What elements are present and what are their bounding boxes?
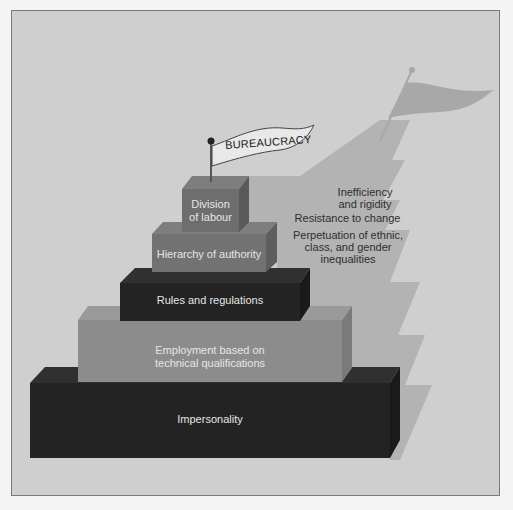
consequence-resistance: Resistance to change [285,212,410,224]
label-line: inequalities [283,253,413,265]
label-line: Inefficiency [310,186,420,198]
label-line: Division [182,198,239,211]
label-line: and rigidity [310,198,420,210]
label-hierarchy: Hierarchy of authority [152,248,266,261]
label-line: technical qualifications [78,357,342,370]
label-line: Impersonality [30,413,390,426]
label-line: class, and gender [283,241,413,253]
label-rules: Rules and regulations [120,294,300,307]
label-line: of labour [182,211,239,224]
label-impersonality: Impersonality [30,413,390,426]
label-line: Perpetuation of ethnic, [283,229,413,241]
label-line: Rules and regulations [120,294,300,307]
label-line: Hierarchy of authority [152,248,266,261]
label-employment: Employment based on technical qualificat… [78,344,342,370]
consequence-inequalities: Perpetuation of ethnic, class, and gende… [283,229,413,265]
consequence-inefficiency: Inefficiency and rigidity [310,186,420,210]
label-line: Employment based on [78,344,342,357]
label-division: Division of labour [182,198,239,224]
label-line: Resistance to change [285,212,410,224]
